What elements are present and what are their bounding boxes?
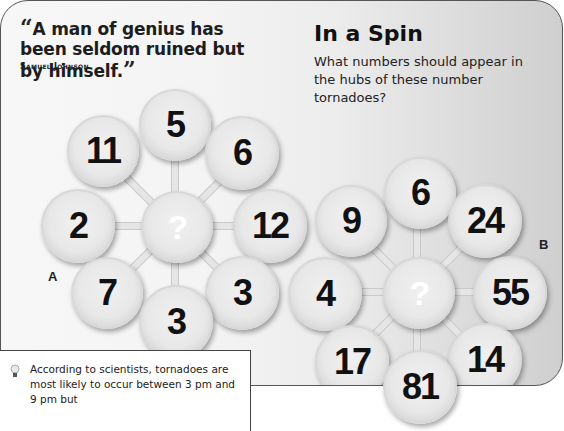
tornado-b-ball-81: 81 <box>383 350 457 424</box>
tornado-b-ball-55: 55 <box>473 256 547 330</box>
quote-author: Samuel Johnson <box>20 62 89 71</box>
tornado-a-label: A <box>48 269 57 284</box>
tornado-a-ball-12: 12 <box>233 189 307 263</box>
tornado-b-ball-9: 9 <box>315 185 387 257</box>
tornado-a-ball-3-right: 3 <box>205 256 279 330</box>
fact-box: According to scientists, tornadoes are m… <box>0 350 251 431</box>
tornado-b-ball-24: 24 <box>448 184 522 258</box>
tornado-a-ball-5: 5 <box>139 89 211 161</box>
close-quote-mark: ” <box>123 56 135 82</box>
puzzle-title: In a Spin <box>314 21 423 46</box>
tornado-b-hub: ? <box>383 257 455 329</box>
tornado-b-ball-14: 14 <box>448 323 522 386</box>
tornado-a-ball-7: 7 <box>71 257 143 329</box>
tornado-b-ball-6: 6 <box>384 157 456 229</box>
tornado-a-ball-3-bottom: 3 <box>139 285 213 359</box>
tornado-b-ball-4: 4 <box>288 257 362 331</box>
fact-text: According to scientists, tornadoes are m… <box>30 362 240 407</box>
puzzle-question: What numbers should appear in the hubs o… <box>314 53 534 107</box>
open-quote-mark: “ <box>20 14 32 40</box>
quote: “A man of genius has been seldom ruined … <box>20 17 260 81</box>
tornado-a-hub: ? <box>141 191 213 263</box>
tornado-a-ball-2: 2 <box>41 189 115 263</box>
tornado-a-ball-11: 11 <box>67 115 139 187</box>
tornado-a-ball-6: 6 <box>205 116 279 190</box>
puzzle-panel: “A man of genius has been seldom ruined … <box>0 0 563 386</box>
lightbulb-icon <box>10 364 20 378</box>
tornado-b-label: B <box>539 237 548 252</box>
